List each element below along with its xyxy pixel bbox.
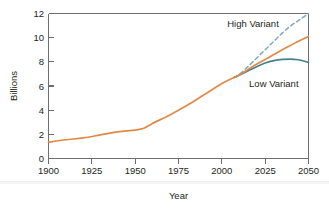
annotation-high-variant: High Variant xyxy=(227,18,279,29)
y-tick-label: 2 xyxy=(39,129,44,140)
y-tick-label: 8 xyxy=(39,56,44,67)
y-tick-labels: 12 10 8 6 4 2 0 xyxy=(33,8,44,164)
x-tick-labels: 1900 1925 1950 1975 2000 2025 2050 xyxy=(38,165,319,176)
x-tick-label: 1900 xyxy=(38,165,59,176)
x-tick-label: 2025 xyxy=(255,165,276,176)
y-tick-label: 12 xyxy=(33,8,44,19)
page-seam xyxy=(0,181,329,184)
y-tick-label: 4 xyxy=(39,105,44,116)
y-axis-ticks xyxy=(49,14,54,159)
x-tick-label: 2000 xyxy=(211,165,232,176)
x-tick-label: 1975 xyxy=(168,165,189,176)
x-tick-label: 2050 xyxy=(298,165,319,176)
annotation-low-variant: Low Variant xyxy=(249,78,299,89)
figure-container: 12 10 8 6 4 2 0 1900 1925 1950 1975 2000… xyxy=(0,0,329,208)
x-axis-ticks xyxy=(49,159,309,164)
y-tick-label: 0 xyxy=(39,153,44,164)
x-axis-title: Year xyxy=(169,190,188,201)
series-line-medium-variant xyxy=(49,36,309,142)
x-tick-label: 1950 xyxy=(125,165,146,176)
x-tick-label: 1925 xyxy=(81,165,102,176)
y-tick-label: 10 xyxy=(33,32,44,43)
population-projection-chart: 12 10 8 6 4 2 0 1900 1925 1950 1975 2000… xyxy=(0,0,329,208)
y-axis-title: Billions xyxy=(8,71,19,101)
y-tick-label: 6 xyxy=(39,81,44,92)
